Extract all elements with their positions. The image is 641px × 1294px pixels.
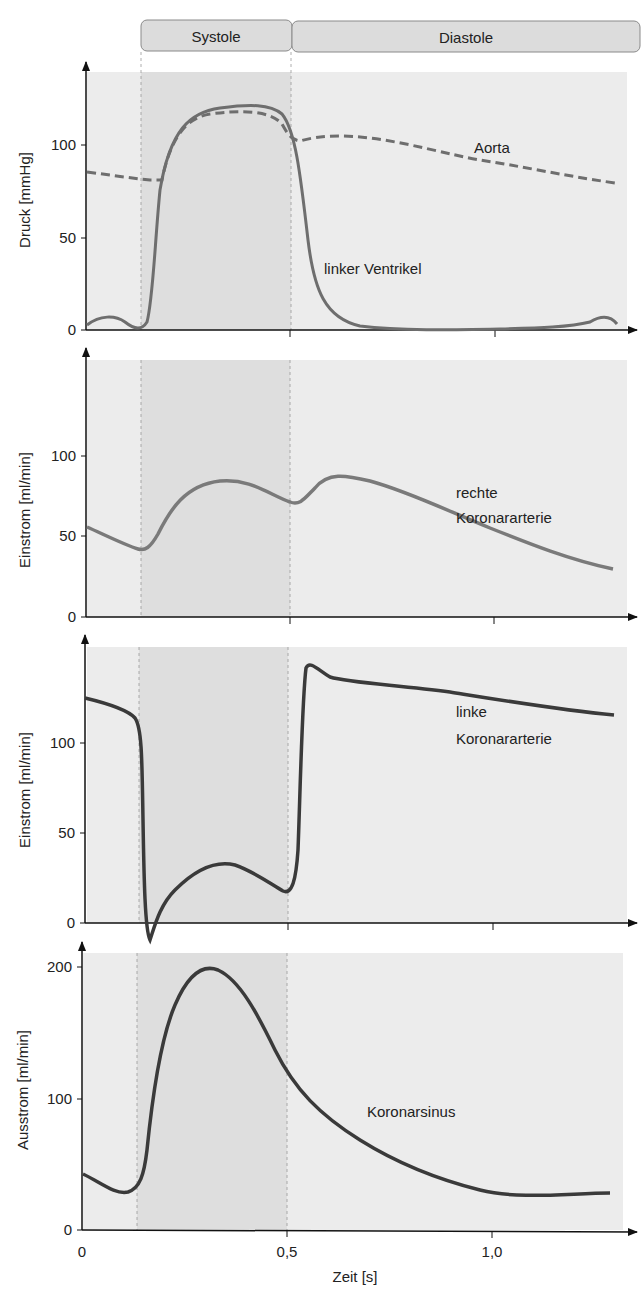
y-tick: 200 — [47, 958, 72, 975]
y-tick: 0 — [68, 321, 76, 338]
y-tick: 50 — [59, 527, 76, 544]
phase-header: Systole Diastole — [141, 20, 640, 52]
y-tick: 100 — [51, 447, 76, 464]
right-coronary-label-1: rechte — [456, 484, 498, 501]
coronary-sinus-label: Koronarsinus — [367, 1103, 455, 1120]
y-axis-title: Einstrom [ml/min] — [16, 732, 33, 848]
x-axis — [82, 1230, 637, 1232]
panel-left-coronary: 0 50 100 Einstrom [ml/min] linke Koronar… — [16, 635, 637, 940]
x-axis-title: Zeit [s] — [332, 1268, 377, 1285]
diastole-label: Diastole — [439, 29, 493, 46]
aorta-label: Aorta — [474, 139, 511, 156]
left-coronary-label-1: linke — [456, 703, 487, 720]
y-tick: 100 — [51, 136, 76, 153]
x-tick: 0,5 — [277, 1243, 298, 1260]
y-axis-title: Druck [mmHg] — [16, 152, 33, 248]
y-tick: 50 — [59, 229, 76, 246]
y-tick: 0 — [64, 1221, 72, 1238]
ventricle-label: linker Ventrikel — [324, 260, 422, 277]
y-axis-title: Einstrom [ml/min] — [16, 452, 33, 568]
y-tick: 100 — [50, 734, 75, 751]
systole-band — [141, 72, 291, 330]
right-coronary-label-2: Koronararterie — [456, 509, 552, 526]
panel-pressure: 0 50 100 Druck [mmHg] Aorta linker Ventr… — [16, 52, 637, 338]
systole-label: Systole — [191, 28, 240, 45]
panel-coronary-sinus: 0 100 200 Ausstrom [ml/min] Koronarsinus… — [14, 942, 637, 1285]
y-tick: 0 — [68, 608, 76, 625]
y-axis-title: Ausstrom [ml/min] — [14, 1030, 31, 1150]
y-tick: 0 — [67, 914, 75, 931]
x-tick: 1,0 — [482, 1243, 503, 1260]
coronary-flow-chart: Systole Diastole 0 50 100 Druck [mmHg] A… — [0, 0, 641, 1294]
panel-right-coronary: 0 50 100 Einstrom [ml/min] rechte Korona… — [16, 348, 637, 625]
x-tick: 0 — [78, 1243, 86, 1260]
y-tick: 50 — [58, 824, 75, 841]
left-coronary-label-2: Koronararterie — [456, 730, 552, 747]
y-tick: 100 — [47, 1090, 72, 1107]
